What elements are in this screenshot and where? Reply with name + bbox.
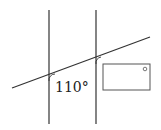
angle-arc-right [96, 57, 101, 64]
rectangle [103, 64, 150, 90]
angle-label: 110° [55, 79, 89, 95]
small-circle [143, 67, 147, 71]
geometry-diagram: 110° [0, 0, 161, 130]
